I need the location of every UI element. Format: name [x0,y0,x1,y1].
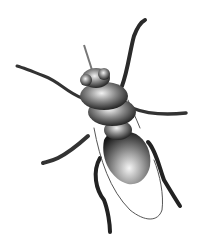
antenna [84,45,92,70]
insect-illustration: Grayscale 3D-rendered fly-like insect vi… [0,0,202,245]
insect-body [80,68,150,184]
legs [17,20,186,232]
